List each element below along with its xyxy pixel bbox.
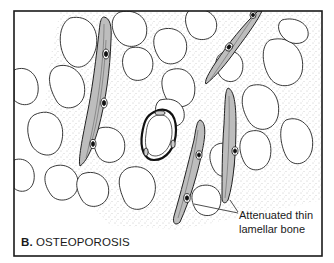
annotation-label: Attenuated thin lamellar bone [239, 208, 313, 236]
panel-title: OSTEOPOROSIS [36, 236, 130, 248]
panel-caption: B. OSTEOPOROSIS [21, 236, 130, 248]
osteoporosis-illustration: Attenuated thin lamellar bone B. OSTEOPO… [0, 0, 334, 263]
panel-letter: B. [21, 236, 33, 248]
annotation-line-1: Attenuated thin [239, 208, 313, 222]
annotation-line-2: lamellar bone [239, 222, 313, 236]
